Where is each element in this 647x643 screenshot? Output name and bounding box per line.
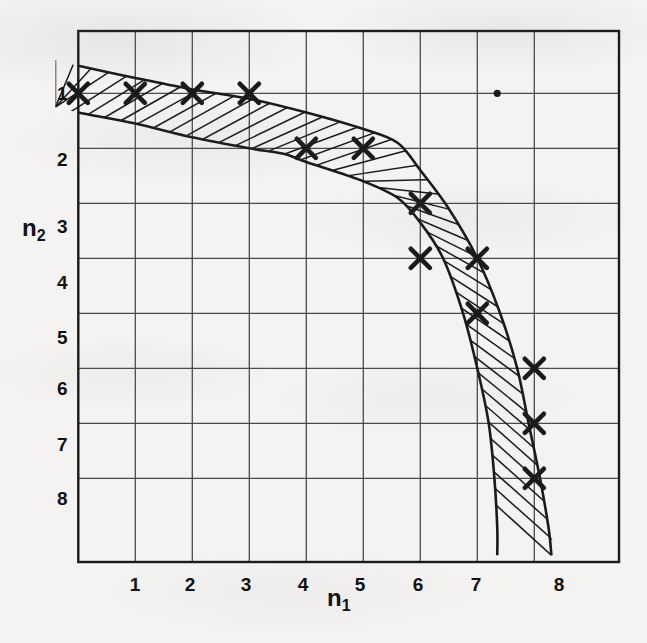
y-tick-label-1: 1 xyxy=(57,84,68,103)
x-tick-label-2: 2 xyxy=(185,575,196,594)
plot-canvas xyxy=(0,0,647,643)
y-tick-label-4: 4 xyxy=(57,273,68,292)
hatched-band xyxy=(42,49,565,568)
x-axis-title-symbol: n xyxy=(327,584,342,611)
y-axis-title-subscript: 2 xyxy=(37,227,46,244)
x-tick-label-5: 5 xyxy=(355,575,366,594)
y-tick-label-6: 6 xyxy=(57,379,68,398)
x-tick-label-4: 4 xyxy=(298,575,309,594)
x-tick-label-1: 1 xyxy=(130,575,141,594)
x-tick-label-3: 3 xyxy=(241,575,252,594)
y-tick-label-7: 7 xyxy=(57,435,68,454)
band-hatch-lines xyxy=(42,49,565,568)
x-axis-title: n1 xyxy=(327,586,351,614)
x-tick-label-6: 6 xyxy=(413,575,424,594)
y-tick-label-8: 8 xyxy=(57,489,68,508)
plot-figure: 1 2 3 4 5 6 7 8 1 2 3 4 5 6 7 8 n2 n1 xyxy=(0,0,647,643)
stray-dot-marker xyxy=(494,90,501,97)
y-tick-label-3: 3 xyxy=(57,217,68,236)
y-tick-label-2: 2 xyxy=(57,150,68,169)
y-tick-label-5: 5 xyxy=(57,328,68,347)
x-tick-label-7: 7 xyxy=(471,575,482,594)
y-axis-title-symbol: n xyxy=(22,214,37,241)
y-axis-title: n2 xyxy=(22,216,46,244)
x-tick-label-8: 8 xyxy=(554,575,565,594)
x-axis-title-subscript: 1 xyxy=(342,597,351,614)
